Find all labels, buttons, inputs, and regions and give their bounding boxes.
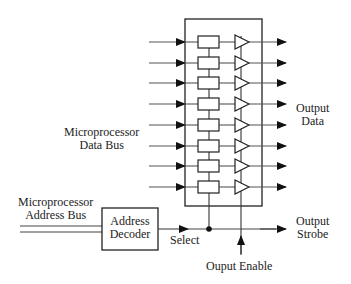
decoder-label-line2: Decoder <box>104 228 156 241</box>
bit-row <box>149 35 286 49</box>
address-bus-label-line2: Address Bus <box>18 209 93 222</box>
latch-register <box>198 98 219 110</box>
output-strobe-label-line2: Strobe <box>296 228 329 241</box>
latch-register <box>198 57 219 69</box>
bit-row <box>149 118 286 132</box>
junction-dot <box>206 226 212 232</box>
bit-row <box>149 56 286 70</box>
bit-row <box>149 180 286 194</box>
tristate-buffer-icon <box>235 76 249 90</box>
tristate-buffer-icon <box>235 56 249 70</box>
data-bus-label: Microprocessor Data Bus <box>64 126 139 152</box>
bit-row <box>149 76 286 90</box>
tristate-buffer-icon <box>235 139 249 153</box>
select-label: Select <box>170 234 199 247</box>
tristate-buffer-icon <box>235 118 249 132</box>
data-bus-label-line2: Data Bus <box>64 139 139 152</box>
output-enable-label: Ouput Enable <box>206 260 272 273</box>
bit-row <box>149 97 286 111</box>
bit-row <box>149 159 286 173</box>
decoder-label: Address Decoder <box>104 215 156 241</box>
tristate-buffer-icon <box>235 159 249 173</box>
output-strobe-label: Output Strobe <box>296 215 329 241</box>
bit-row <box>149 139 286 153</box>
port-diagram: Microprocessor Data Bus Microprocessor A… <box>0 0 351 284</box>
bit-rows <box>149 35 286 194</box>
latch-register <box>198 140 219 152</box>
latch-register <box>198 36 219 48</box>
tristate-buffer-icon <box>235 35 249 49</box>
address-bus-label: Microprocessor Address Bus <box>18 196 93 222</box>
tristate-buffer-icon <box>235 97 249 111</box>
latch-register <box>198 119 219 131</box>
latch-register <box>198 181 219 193</box>
output-data-label: Output Data <box>296 102 329 128</box>
latch-register <box>198 77 219 89</box>
latch-register <box>198 160 219 172</box>
tristate-buffer-icon <box>235 180 249 194</box>
output-data-label-line2: Data <box>296 115 329 128</box>
output-port-box <box>185 19 262 206</box>
